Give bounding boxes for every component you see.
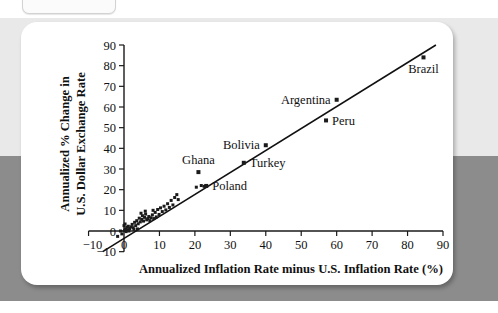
data-point — [142, 220, 145, 223]
data-point — [132, 228, 135, 231]
y-axis-tick-label: 80 — [104, 59, 117, 73]
data-point-peru — [324, 118, 328, 122]
data-point — [156, 208, 159, 211]
data-point-poland — [204, 184, 208, 188]
page-root: −100102030405060708090010203040506070809… — [0, 0, 498, 313]
y-axis-tick-label: 20 — [104, 183, 117, 197]
x-axis-tick-label: 60 — [330, 238, 343, 252]
y-axis-title-line2: U.S. Dollar Exchange Rate — [74, 72, 88, 216]
point-label-peru: Peru — [332, 114, 356, 128]
data-point — [164, 208, 167, 211]
x-axis-tick-label: 70 — [366, 238, 379, 252]
data-point — [123, 224, 126, 227]
y-axis-tick-label: 90 — [104, 39, 117, 53]
data-point — [120, 232, 123, 235]
data-point — [149, 216, 152, 219]
point-label-turkey: Turkey — [250, 156, 286, 170]
data-point — [170, 199, 173, 202]
data-point-argentina — [335, 98, 339, 102]
data-point — [144, 210, 147, 213]
data-point — [140, 212, 143, 215]
data-point — [200, 184, 203, 187]
point-label-ghana: Ghana — [182, 153, 215, 167]
data-point — [116, 235, 119, 238]
x-axis-tick-label: 30 — [224, 238, 237, 252]
data-point — [144, 213, 147, 216]
data-point — [158, 213, 161, 216]
y-axis-tick-label: 70 — [104, 80, 117, 94]
y-axis-title-line1: Annualized % Change in — [58, 76, 72, 211]
figure-card: −100102030405060708090010203040506070809… — [21, 22, 453, 285]
data-point — [151, 213, 154, 216]
point-label-bolivia: Bolivia — [223, 138, 260, 152]
x-axis-tick-label: 80 — [401, 238, 414, 252]
x-axis-tick-label: 10 — [153, 238, 166, 252]
data-point — [127, 230, 130, 233]
y-axis-tick-label: 50 — [104, 121, 117, 135]
point-label-brazil: Brazil — [408, 62, 439, 76]
y-axis-tick-label: 10 — [104, 204, 117, 218]
data-point-brazil — [422, 55, 426, 59]
x-axis-tick-label: 40 — [260, 238, 273, 252]
data-point — [177, 198, 180, 201]
x-axis-tick-label: 50 — [295, 238, 308, 252]
data-point-bolivia — [264, 143, 268, 147]
y-axis-tick-label: 0 — [110, 225, 116, 239]
x-axis-tick-label: 90 — [437, 238, 450, 252]
data-point — [161, 210, 164, 213]
x-axis-tick-label: −10 — [83, 238, 103, 252]
data-point — [159, 206, 162, 209]
data-point — [195, 186, 198, 189]
data-point-ghana — [196, 170, 200, 174]
y-axis-tick-label: 30 — [104, 163, 117, 177]
x-axis-title: Annualized Inflation Rate minus U.S. Inf… — [139, 262, 443, 276]
data-point — [136, 227, 139, 230]
point-label-argentina: Argentina — [281, 93, 331, 107]
y-axis-tick-label: 40 — [104, 142, 117, 156]
point-label-poland: Poland — [212, 179, 247, 193]
top-tab-stub[interactable] — [22, 0, 116, 14]
data-point — [171, 203, 174, 206]
data-point — [173, 196, 176, 199]
chart-canvas: −100102030405060708090010203040506070809… — [21, 22, 453, 285]
y-axis-tick-label: 60 — [104, 101, 117, 115]
data-point — [168, 206, 171, 209]
scatter-chart: −100102030405060708090010203040506070809… — [21, 22, 453, 285]
x-axis-tick-label: 20 — [189, 238, 202, 252]
data-point-turkey — [242, 161, 246, 165]
data-point — [155, 215, 158, 218]
data-point — [166, 202, 169, 205]
regression-line — [103, 45, 436, 252]
background-base — [0, 301, 498, 313]
data-point — [152, 209, 155, 212]
data-point — [175, 193, 178, 196]
data-point — [163, 205, 166, 208]
data-point — [148, 219, 151, 222]
data-point — [119, 230, 122, 233]
